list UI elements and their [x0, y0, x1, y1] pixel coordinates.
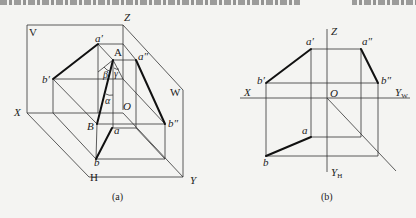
- plane-w-label: W: [170, 86, 181, 98]
- angle-beta: β: [102, 69, 108, 80]
- point-B: B: [87, 120, 94, 132]
- projection-diagrams: V Z W X O H Y a′ A a″ b′ B a b b″ β γ α …: [0, 0, 416, 218]
- angle-alpha: α: [105, 95, 111, 106]
- point-A: A: [114, 46, 122, 58]
- axis-x-label: X: [13, 106, 22, 118]
- plane-h-label: H: [90, 171, 98, 183]
- top-projection-ab: [266, 137, 311, 156]
- figure-b: Z X O YW YH a′ a″ b′ b″ a b (b): [240, 25, 410, 203]
- axis-y-label: Y: [190, 174, 198, 186]
- point-b-double-prime: b″: [168, 117, 179, 129]
- point-a-prime: a′: [95, 32, 104, 44]
- caption-a: (a): [112, 191, 123, 203]
- point-b: b: [94, 156, 100, 168]
- axis-z-label: Z: [124, 11, 131, 23]
- point-b-double-prime: b″: [381, 74, 392, 86]
- plane-v-label: V: [29, 26, 37, 38]
- caption-b: (b): [321, 191, 333, 203]
- h-plane-frame: [27, 113, 183, 177]
- front-projection-ab: [266, 49, 311, 83]
- point-a: a: [114, 124, 120, 136]
- side-projection-ab: [361, 49, 378, 83]
- origin-o-label: O: [330, 87, 338, 99]
- axis-z-label: Z: [331, 25, 338, 37]
- point-b-prime: b′: [42, 73, 51, 85]
- point-b-prime: b′: [257, 74, 266, 86]
- side-projection-ab: [136, 60, 165, 124]
- origin-o-label: O: [123, 100, 131, 112]
- point-a-double-prime: a″: [362, 35, 373, 47]
- miter-line: [327, 98, 396, 171]
- point-b: b: [263, 156, 269, 168]
- front-projection-ab: [53, 44, 98, 79]
- top-projection-ab: [96, 128, 112, 159]
- axis-yh-label: YH: [331, 166, 342, 180]
- point-a: a: [302, 124, 308, 136]
- point-a-prime: a′: [306, 35, 315, 47]
- point-a-double-prime: a″: [138, 50, 149, 62]
- figure-a: V Z W X O H Y a′ A a″ b′ B a b b″ β γ α …: [13, 11, 198, 203]
- axis-x-label: X: [243, 86, 252, 98]
- axis-yw-label: YW: [395, 86, 408, 100]
- w-plane-frame: [123, 25, 183, 177]
